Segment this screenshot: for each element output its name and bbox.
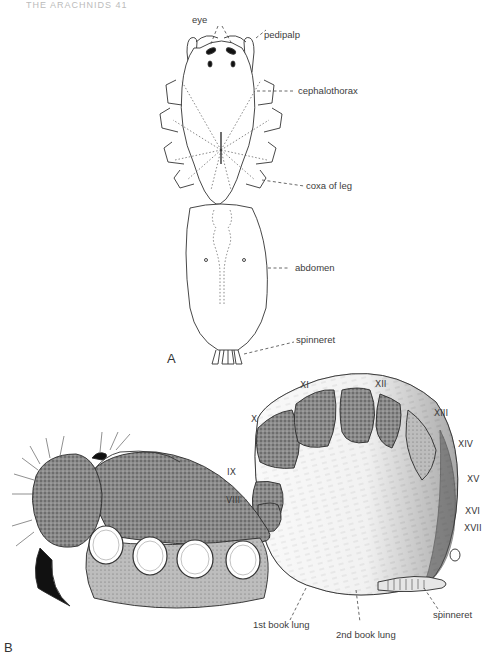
panel-label-b: B (4, 640, 13, 655)
segment-label-ix: IX (227, 468, 236, 477)
segment-label-xv: XV (467, 475, 479, 484)
panel-label-a: A (167, 351, 176, 366)
segment-label-xiv: XIV (458, 440, 473, 449)
segment-label-xi: XI (300, 381, 309, 390)
label-spinneret-b: spinneret (433, 610, 472, 620)
segment-label-viii: VIII (226, 496, 240, 505)
segment-label-xiii: XIII (434, 409, 448, 418)
label-eye: eye (192, 15, 207, 25)
label-pedipalp: pedipalp (264, 30, 300, 40)
label-2nd-book-lung: 2nd book lung (336, 630, 396, 640)
label-spinneret-a: spinneret (296, 335, 335, 345)
label-coxa-of-leg: coxa of leg (306, 181, 352, 191)
segment-label-xii: XII (375, 380, 386, 389)
segment-label-x: X (251, 415, 257, 424)
label-1st-book-lung: 1st book lung (253, 620, 310, 630)
figure-a-dorsal-view (160, 26, 304, 364)
label-abdomen: abdomen (295, 263, 335, 273)
segment-label-xvii: XVII (464, 524, 482, 533)
label-cephalothorax: cephalothorax (298, 86, 358, 96)
segment-label-xvi: XVI (465, 507, 480, 516)
arachnid-anatomy-illustration (0, 0, 502, 656)
